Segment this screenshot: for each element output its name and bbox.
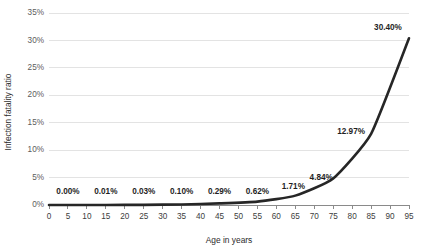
x-axis-tick-labels: 05101520253035404550556065707580859095	[47, 212, 414, 221]
y-axis-tick-label: 5%	[32, 173, 44, 182]
x-axis-title: Age in years	[206, 235, 253, 245]
y-axis-tick-label: 35%	[28, 8, 44, 17]
x-axis-tick-label: 0	[47, 212, 52, 221]
data-point-label: 0.10%	[170, 187, 194, 196]
infection-fatality-ratio-chart: 0%5%10%15%20%25%30%35% 05101520253035404…	[0, 0, 429, 252]
x-axis-tick-label: 70	[310, 212, 320, 221]
y-axis-tick-label: 0%	[32, 200, 44, 209]
y-axis-tick-label: 20%	[28, 90, 44, 99]
y-axis-tick-labels: 0%5%10%15%20%25%30%35%	[28, 8, 44, 209]
data-point-label: 0.62%	[246, 187, 270, 196]
y-axis-title: Infection fatality ratio	[3, 73, 13, 150]
data-point-label: 0.29%	[208, 187, 232, 196]
data-point-label: 30.40%	[374, 23, 402, 32]
data-point-label: 0.00%	[56, 187, 80, 196]
x-axis-tick-label: 5	[66, 212, 71, 221]
chart-container: 0%5%10%15%20%25%30%35% 05101520253035404…	[0, 0, 429, 252]
x-axis-tick-label: 15	[101, 212, 111, 221]
x-axis-tick-label: 25	[139, 212, 149, 221]
data-point-label: 4.84%	[310, 173, 334, 182]
data-point-label: 1.71%	[282, 182, 306, 191]
data-point-label: 0.03%	[132, 187, 156, 196]
x-axis-tick-label: 55	[253, 212, 263, 221]
y-axis-tick-label: 30%	[28, 36, 44, 45]
x-axis-tick-label: 80	[348, 212, 358, 221]
x-axis-tick-label: 50	[234, 212, 244, 221]
data-point-labels: 0.00%0.01%0.03%0.10%0.29%0.62%1.71%4.84%…	[56, 23, 402, 196]
x-axis-tick-label: 90	[385, 212, 395, 221]
gridlines	[49, 13, 409, 178]
x-axis-tick-label: 20	[120, 212, 130, 221]
x-axis-tick-label: 60	[272, 212, 282, 221]
x-axis-tick-label: 95	[404, 212, 414, 221]
x-axis-tick-label: 75	[329, 212, 339, 221]
y-axis-tick-label: 25%	[28, 63, 44, 72]
x-axis-tick-label: 65	[291, 212, 301, 221]
series-line-infection-fatality-ratio	[49, 38, 409, 205]
y-axis-tick-label: 15%	[28, 118, 44, 127]
x-axis-tick-label: 10	[82, 212, 92, 221]
x-axis-tick-label: 40	[196, 212, 206, 221]
y-axis-tick-label: 10%	[28, 145, 44, 154]
x-axis-tick-label: 35	[177, 212, 187, 221]
x-axis-tick-label: 30	[158, 212, 168, 221]
data-point-label: 12.97%	[337, 127, 365, 136]
data-point-label: 0.01%	[94, 187, 118, 196]
x-axis-tick-label: 85	[367, 212, 377, 221]
x-axis-tick-label: 45	[215, 212, 225, 221]
